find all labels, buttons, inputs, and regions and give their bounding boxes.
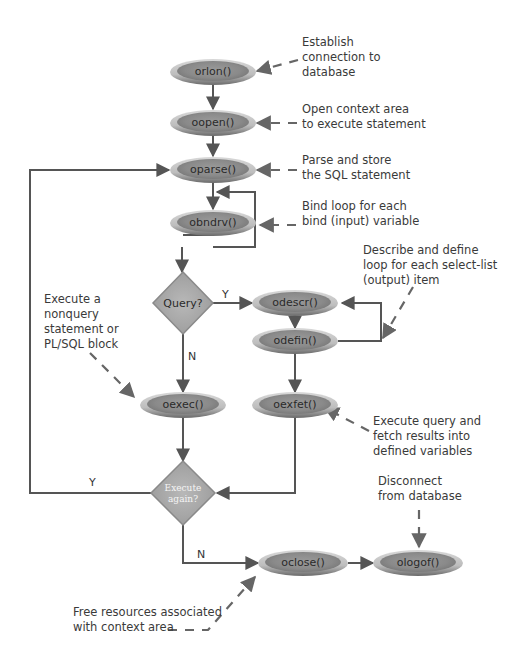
annotation-line: Execute a [44, 292, 101, 306]
annotation-line: defined variables [373, 444, 472, 458]
node-label: odescr() [272, 296, 317, 309]
annotation-obndrv: Bind loop for each bind (input) variable [302, 199, 419, 228]
annotation-line: statement or [44, 322, 119, 336]
annotation-line: loop for each select-list [363, 258, 498, 272]
node-ologof: ologof() [373, 550, 463, 576]
edge-label-query-yes: Y [221, 288, 229, 301]
node-oparse: oparse() [170, 157, 256, 183]
node-label: orlon() [195, 65, 232, 78]
annotation-line: Describe and define [363, 243, 478, 257]
annotation-line: to execute statement [302, 117, 426, 131]
node-label: obndrv() [189, 216, 236, 229]
node-oexfet: oexfet() [252, 392, 338, 418]
annotation-oclose: Free resources associated with context a… [73, 605, 222, 634]
node-query-decision: Query? [153, 272, 213, 334]
annotation-line: Disconnect [378, 474, 442, 488]
annotation-line: fetch results into [373, 429, 470, 443]
node-label: oparse() [190, 163, 236, 176]
node-execute-again-decision: Execute again? [151, 461, 215, 525]
annotation-line: Free resources associated [73, 605, 222, 619]
node-oexec: oexec() [140, 392, 226, 418]
node-oopen: oopen() [170, 110, 256, 136]
flowchart-diagram: orlon() oopen() oparse() obndrv() Query?… [0, 0, 514, 662]
annotation-line: bind (input) variable [302, 214, 419, 228]
annotation-oexec: Execute a nonquery statement or PL/SQL b… [44, 292, 119, 351]
annotation-line: the SQL statement [302, 168, 411, 182]
node-oclose: oclose() [258, 550, 348, 576]
annotation-line: Parse and store [302, 153, 391, 167]
node-label: oopen() [192, 116, 235, 129]
node-label-line2: again? [168, 494, 198, 504]
annotation-line: connection to [302, 50, 381, 64]
node-label: oexfet() [273, 398, 316, 411]
annotation-line: PL/SQL block [44, 337, 118, 351]
annotation-oexfet: Execute query and fetch results into def… [373, 414, 481, 458]
annotation-line: Execute query and [373, 414, 481, 428]
annotation-ologof: Disconnect from database [378, 474, 462, 503]
annotation-orlon: Establish connection to database [302, 35, 381, 79]
edge-label-again-no: N [197, 548, 205, 561]
node-odescr: odescr() [252, 290, 338, 316]
node-label: oexec() [163, 398, 204, 411]
annotation-line: nonquery [44, 307, 99, 321]
annotation-line: Establish [302, 35, 354, 49]
edge-label-again-yes: Y [88, 476, 96, 489]
annotation-line: database [302, 65, 355, 79]
node-label: ologof() [397, 556, 440, 569]
annotation-oopen: Open context area to execute statement [302, 102, 426, 131]
edge-label-query-no: N [188, 350, 196, 363]
node-label: odefin() [274, 334, 317, 347]
annotation-line: with context area [73, 620, 174, 634]
node-label-line1: Execute [165, 483, 202, 493]
node-odefin: odefin() [252, 328, 338, 354]
annotation-line: Bind loop for each [302, 199, 407, 213]
annotation-line: (output) item [363, 273, 440, 287]
annotation-line: from database [378, 489, 462, 503]
node-label: oclose() [281, 556, 325, 569]
node-label: Query? [163, 297, 202, 310]
annotation-line: Open context area [302, 102, 409, 116]
node-obndrv: obndrv() [170, 210, 256, 236]
node-orlon: orlon() [170, 59, 256, 85]
annotation-oparse: Parse and store the SQL statement [302, 153, 411, 182]
annotation-odefin: Describe and define loop for each select… [363, 243, 498, 287]
